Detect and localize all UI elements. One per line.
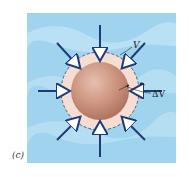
figure-panel: V ΔV (27, 13, 176, 163)
label-delta-v: ΔV (152, 89, 165, 99)
sphere (71, 62, 129, 120)
panel-label: (c) (12, 150, 24, 160)
compression-diagram: V ΔV (27, 13, 176, 163)
